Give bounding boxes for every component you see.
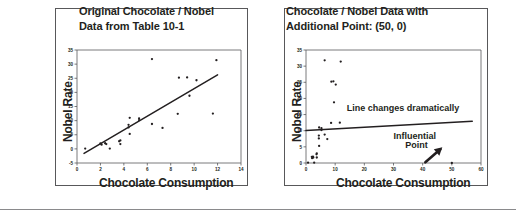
data-point: [119, 139, 121, 141]
svg-text:6: 6: [146, 167, 149, 172]
data-point: [318, 137, 320, 139]
data-point: [186, 76, 188, 78]
svg-text:50: 50: [449, 167, 455, 172]
svg-text:12: 12: [215, 167, 221, 172]
data-points-left: [84, 58, 218, 150]
axis-x-left: 02468101214: [76, 163, 244, 172]
influential-point-arrow: [425, 147, 442, 162]
svg-text:35: 35: [68, 48, 74, 53]
svg-text:20: 20: [362, 167, 368, 172]
svg-text:2: 2: [99, 167, 102, 172]
data-point: [127, 124, 129, 126]
svg-text:40: 40: [420, 167, 426, 172]
svg-text:8: 8: [169, 167, 172, 172]
svg-text:30: 30: [297, 64, 303, 69]
data-point: [109, 147, 111, 149]
data-point: [316, 156, 318, 158]
data-point: [333, 101, 335, 103]
data-point: [451, 162, 453, 164]
svg-text:-5: -5: [69, 161, 74, 166]
y-axis-label-left: Nobel Rate: [61, 81, 75, 142]
data-point: [215, 59, 217, 61]
chart-panel-left: Original Chocolate / Nobel Data from Tab…: [55, 0, 248, 196]
data-point: [335, 83, 337, 85]
data-point: [316, 152, 318, 154]
data-point: [318, 134, 320, 136]
data-point: [105, 143, 107, 145]
chart-title-right: Chocolate / Nobel Data with Additional P…: [286, 4, 428, 34]
svg-text:10: 10: [333, 167, 339, 172]
data-point: [324, 133, 326, 135]
data-point: [330, 122, 332, 124]
svg-text:30: 30: [68, 62, 74, 67]
data-point: [332, 80, 334, 82]
data-point: [330, 80, 332, 82]
svg-text:0: 0: [70, 147, 73, 152]
svg-text:0: 0: [299, 161, 302, 166]
data-point: [318, 145, 320, 147]
svg-text:60: 60: [478, 167, 484, 172]
data-point: [151, 58, 153, 60]
data-point: [84, 147, 86, 149]
data-point: [326, 138, 328, 140]
data-point: [151, 123, 153, 125]
data-point: [129, 133, 131, 135]
axis-x-right: 0102030405060: [305, 163, 484, 172]
data-point: [161, 127, 163, 129]
svg-text:5: 5: [299, 145, 302, 150]
data-point: [318, 126, 320, 128]
data-point: [212, 112, 214, 114]
data-point: [178, 77, 180, 79]
svg-text:30: 30: [391, 167, 397, 172]
data-point: [340, 60, 342, 62]
regression-line-left: [84, 75, 218, 154]
data-point: [339, 121, 341, 123]
data-point: [312, 156, 314, 158]
line-changes-note: Line changes dramatically: [347, 103, 460, 113]
svg-text:0: 0: [76, 167, 79, 172]
chart-title-left: Original Chocolate / Nobel Data from Tab…: [79, 4, 214, 34]
chart-panel-right: Chocolate / Nobel Data with Additional P…: [284, 0, 488, 196]
svg-text:10: 10: [192, 167, 198, 172]
data-point: [138, 117, 140, 119]
y-axis-label-right: Nobel Rate: [290, 81, 304, 142]
bottom-divider: [0, 209, 516, 210]
data-point: [307, 162, 309, 164]
svg-text:0: 0: [305, 167, 308, 172]
x-axis-label-right: Chocolate Consumption: [336, 176, 470, 190]
influential-point-note-2: Point: [405, 140, 428, 150]
data-point: [119, 143, 121, 145]
data-point: [324, 59, 326, 61]
svg-text:35: 35: [297, 48, 303, 53]
x-axis-label-left: Chocolate Consumption: [99, 176, 233, 190]
figure-root: Original Chocolate / Nobel Data from Tab…: [0, 0, 516, 212]
data-point: [313, 162, 315, 164]
data-point: [188, 95, 190, 97]
svg-text:14: 14: [238, 167, 244, 172]
svg-text:4: 4: [123, 167, 126, 172]
data-point: [177, 113, 179, 115]
data-point: [195, 79, 197, 81]
data-point: [129, 117, 131, 119]
annotations-right: Line changes dramaticallyInfluentialPoin…: [347, 103, 460, 162]
